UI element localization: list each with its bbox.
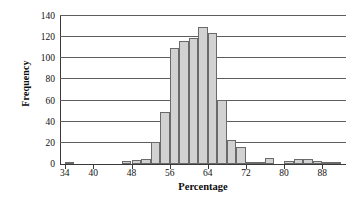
- histogram-bar: [198, 27, 208, 164]
- y-axis-tick-label: 60: [46, 96, 56, 106]
- histogram-bar: [170, 48, 180, 164]
- y-axis-tick-label: 100: [41, 53, 55, 63]
- histogram-bar: [65, 162, 75, 164]
- histogram-bar: [151, 142, 161, 164]
- histogram-bar: [313, 161, 323, 164]
- histogram-bar: [255, 162, 265, 164]
- x-axis-tick-label: 56: [165, 168, 175, 178]
- x-axis-tick-label: 64: [203, 168, 213, 178]
- histogram-bars: [60, 16, 346, 164]
- x-axis-tick-label: 72: [241, 168, 251, 178]
- y-axis-tick-label: 20: [46, 138, 56, 148]
- histogram-bar: [284, 161, 294, 164]
- x-axis-tick-label: 80: [279, 168, 289, 178]
- y-axis-tick-label: 80: [46, 74, 56, 84]
- x-axis-tick-labels: 3440485664728088: [60, 168, 346, 182]
- histogram-bar: [332, 162, 342, 164]
- histogram-bar: [294, 159, 304, 164]
- y-axis-tick-labels: 020406080100120140: [30, 10, 58, 166]
- histogram-bar: [265, 158, 275, 164]
- y-axis-tick-label: 40: [46, 117, 56, 127]
- histogram-bar: [179, 41, 189, 164]
- y-axis-title-text: Frequency: [20, 60, 31, 106]
- x-axis-tick-label: 34: [60, 168, 70, 178]
- y-axis-tick-label: 120: [41, 32, 55, 42]
- histogram-bar: [236, 147, 246, 164]
- histogram-bar: [217, 100, 227, 164]
- y-axis-tick-label: 140: [41, 11, 55, 21]
- histogram-bar: [227, 140, 237, 164]
- histogram-bar: [160, 112, 170, 164]
- histogram-bar: [132, 160, 142, 164]
- histogram-bar: [303, 159, 313, 164]
- histogram-bar: [141, 159, 151, 164]
- histogram-bar: [322, 162, 332, 164]
- histogram-chart: Frequency 020406080100120140 34404856647…: [0, 0, 355, 198]
- plot-area: [60, 16, 346, 164]
- x-axis-tick-label: 88: [317, 168, 327, 178]
- y-axis-tick-label: 0: [50, 159, 55, 169]
- histogram-bar: [208, 33, 218, 164]
- histogram-bar: [189, 38, 199, 164]
- histogram-bar: [122, 161, 132, 164]
- x-axis-tick-label: 40: [89, 168, 99, 178]
- x-axis-tick-label: 48: [127, 168, 137, 178]
- x-axis-title: Percentage: [60, 181, 346, 192]
- histogram-bar: [246, 162, 256, 164]
